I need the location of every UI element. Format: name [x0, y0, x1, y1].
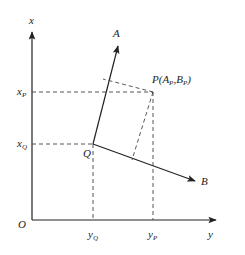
- label-p-close: ): [186, 73, 191, 86]
- tick-xq: xQ: [16, 137, 27, 151]
- dash-p-to-qa: [103, 79, 153, 92]
- label-p-open: P(A: [151, 73, 169, 86]
- label-point-q: Q: [83, 147, 91, 159]
- vector-qb: [93, 144, 195, 181]
- tick-yq: yQ: [87, 228, 98, 242]
- label-axis-y: y: [207, 228, 213, 240]
- label-vector-b: B: [201, 175, 208, 187]
- tick-xp-sub: P: [21, 91, 27, 99]
- label-axis-x: x: [28, 14, 34, 26]
- vector-qa: [93, 46, 118, 144]
- label-vector-a: A: [112, 27, 120, 39]
- tick-yp-sub: P: [152, 234, 158, 242]
- tick-yp: yP: [147, 228, 158, 242]
- tick-xq-sub: Q: [22, 143, 27, 151]
- label-p-mid: ,B: [173, 73, 183, 85]
- tick-yq-sub: Q: [93, 234, 98, 242]
- dash-p-to-qb: [132, 92, 153, 160]
- label-point-p: P(AP,BP): [151, 73, 191, 87]
- tick-xp: xP: [16, 85, 27, 99]
- label-origin: O: [18, 218, 26, 230]
- coordinate-diagram: x y O A B Q P(AP,BP) xP xQ yQ yP: [0, 0, 245, 255]
